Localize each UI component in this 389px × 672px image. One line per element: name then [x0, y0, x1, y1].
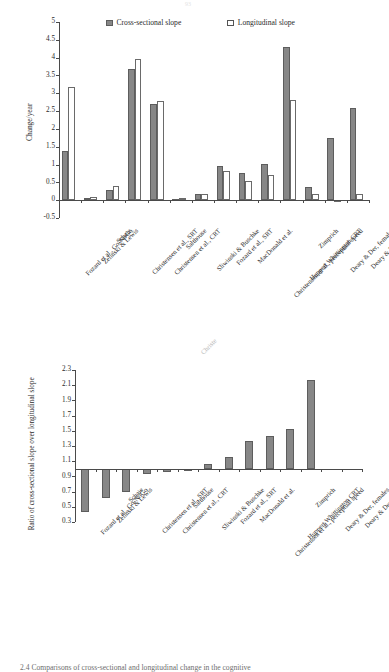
top-chart-x-tick	[303, 200, 304, 203]
bottom-chart-bar	[225, 457, 233, 468]
bottom-chart-x-tick	[198, 469, 199, 472]
bottom-chart-y-tick	[72, 507, 75, 508]
bottom-chart-x-tick	[260, 469, 261, 472]
top-chart-bar-cs	[128, 69, 135, 200]
top-chart-bar-cs	[283, 47, 290, 200]
top-chart-bar-lg	[113, 186, 120, 200]
top-chart-y-tick-label: 3.5	[21, 72, 55, 79]
top-chart-x-tick	[125, 200, 126, 203]
bottom-chart-x-tick	[342, 469, 343, 472]
bottom-chart-y-tick	[72, 446, 75, 447]
bottom-chart-x-tick	[280, 469, 281, 472]
top-chart-x-tick	[214, 200, 215, 203]
top-chart-x-label: Zimprich	[316, 227, 339, 250]
top-chart-y-tick	[56, 40, 59, 41]
bottom-chart-y-tick	[72, 431, 75, 432]
bottom-chart-y-tick-label: 0.3	[37, 518, 71, 525]
bottom-chart-bar	[81, 469, 89, 512]
top-chart-y-tick-label: -0.5	[21, 214, 55, 221]
bottom-chart-y-tick	[72, 522, 75, 523]
bottom-chart-bar	[245, 441, 253, 469]
top-chart-y-tick	[56, 111, 59, 112]
bottom-chart-x-tick	[178, 469, 179, 472]
top-chart-x-tick	[81, 200, 82, 203]
bottom-y-title-text: Ratio of cross-sectional slope over long…	[28, 377, 36, 530]
bottom-chart-bar	[266, 436, 274, 469]
top-chart-x-tick	[325, 200, 326, 203]
bottom-chart-y-tick-label: 1.3	[37, 442, 71, 449]
figure-page: 93 Cross-sectional slope Longitudinal sl…	[0, 0, 389, 672]
top-chart-y-tick-label: 3	[21, 89, 55, 96]
top-chart-x-tick	[170, 200, 171, 203]
top-chart-plot-area	[59, 22, 369, 218]
top-chart-bar-cs	[106, 190, 113, 200]
figure-caption: 2.4 Comparisons of cross-sectional and l…	[20, 663, 251, 672]
top-chart-y-tick	[56, 182, 59, 183]
top-chart-y-tick-label: 1.5	[21, 143, 55, 150]
bottom-chart-y-tick	[72, 492, 75, 493]
top-chart-x-tick	[258, 200, 259, 203]
top-chart-y-tick	[56, 93, 59, 94]
top-chart-x-tick	[192, 200, 193, 203]
bottom-chart-x-tick	[321, 469, 322, 472]
top-chart-bars	[59, 22, 369, 218]
bottom-chart-y-tick	[72, 385, 75, 386]
top-chart-y-tick-label: 1	[21, 161, 55, 168]
bottom-chart-bar	[286, 429, 294, 469]
top-chart-bar-cs	[327, 138, 334, 200]
bottom-chart-y-tick-label: 0.9	[37, 473, 71, 480]
top-chart-x-tick	[347, 200, 348, 203]
top-chart-y-tick	[56, 58, 59, 59]
bottom-chart-y-tick	[72, 400, 75, 401]
bottom-chart-bar	[122, 469, 130, 493]
top-chart-x-tick	[59, 200, 60, 203]
bottom-chart-x-tick	[239, 469, 240, 472]
top-chart-bar-lg	[290, 100, 297, 200]
top-chart-bar-cs	[217, 166, 224, 200]
bottom-chart-y-tick	[72, 476, 75, 477]
top-chart-y-tick-label: 0	[21, 196, 55, 203]
bottom-chart-y-tick	[72, 461, 75, 462]
top-chart-y-tick	[56, 129, 59, 130]
top-chart-x-tick	[236, 200, 237, 203]
bottom-chart-x-tick	[116, 469, 117, 472]
bottom-bar-chart: Ratio of cross-sectional slope over long…	[0, 330, 389, 650]
top-chart-y-tick	[56, 218, 59, 219]
top-chart-bar-lg	[157, 101, 164, 200]
top-chart-bar-cs	[350, 108, 357, 200]
bottom-chart-y-tick-label: 0.5	[37, 503, 71, 510]
top-chart-y-tick-label: 4.5	[21, 36, 55, 43]
top-chart-bar-cs	[239, 173, 246, 200]
bottom-chart-y-axis-title-line1: Ratio of cross-sectional slope over long…	[28, 378, 37, 530]
top-chart-x-tick	[280, 200, 281, 203]
top-chart-y-tick	[56, 165, 59, 166]
bottom-chart-y-axis-spine	[75, 370, 76, 522]
top-chart-y-tick-label: 4	[21, 54, 55, 61]
top-chart-x-tick	[103, 200, 104, 203]
bottom-chart-x-tick	[75, 469, 76, 472]
top-chart-y-tick-label: 5	[21, 18, 55, 25]
top-chart-bar-lg	[245, 181, 252, 200]
bottom-chart-bar	[102, 469, 110, 499]
bottom-chart-y-tick-label: 2.1	[37, 381, 71, 388]
bottom-chart-x-tick	[157, 469, 158, 472]
top-chart-y-tick-label: 0.5	[21, 179, 55, 186]
bottom-chart-y-tick-label: 1.5	[37, 427, 71, 434]
bottom-chart-bar	[307, 380, 315, 469]
top-chart-x-tick	[369, 200, 370, 203]
bottom-chart-y-tick	[72, 370, 75, 371]
top-chart-bar-cs	[62, 151, 69, 200]
bottom-chart-x-tick	[301, 469, 302, 472]
top-chart-bar-cs	[261, 164, 268, 200]
top-chart-y-tick-label: 2	[21, 125, 55, 132]
bottom-chart-x-tick	[96, 469, 97, 472]
top-chart-bar-lg	[135, 59, 142, 200]
top-chart-y-tick	[56, 22, 59, 23]
bottom-chart-y-tick-label: 1.9	[37, 397, 71, 404]
bottom-chart-x-tick	[137, 469, 138, 472]
bottom-chart-y-tick	[72, 416, 75, 417]
top-chart-y-tick	[56, 147, 59, 148]
bottom-chart-x-tick	[219, 469, 220, 472]
top-chart-y-tick-label: 2.5	[21, 107, 55, 114]
top-chart-bar-lg	[68, 87, 75, 201]
